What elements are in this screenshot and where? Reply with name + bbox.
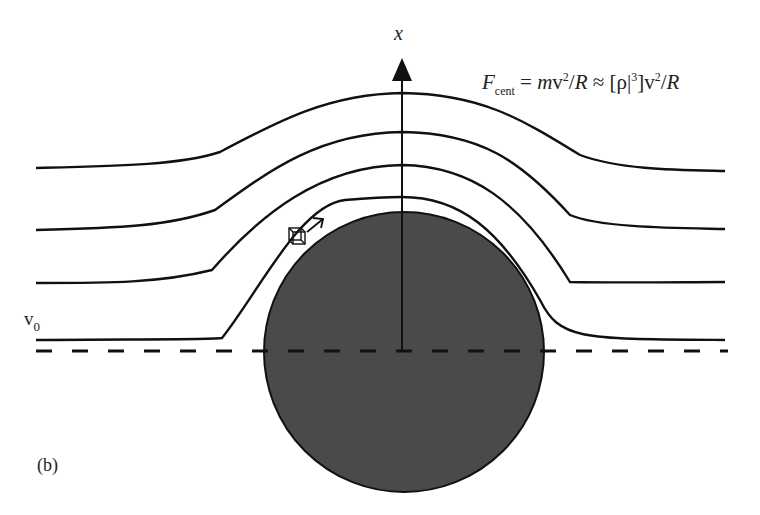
- fluid-element-cube-icon: [289, 228, 305, 244]
- formula-m: m: [537, 70, 552, 94]
- formula-v1: v: [552, 70, 563, 94]
- formula-approx: ≈: [593, 70, 605, 94]
- panel-label: (b): [37, 455, 58, 476]
- x-axis-label: x: [394, 22, 403, 45]
- velocity-label: v0: [24, 308, 40, 335]
- velocity-label-base: v: [24, 308, 34, 329]
- formula-R2: R: [667, 70, 680, 94]
- velocity-label-sub: 0: [34, 319, 41, 334]
- formula-R1: R: [575, 70, 588, 94]
- formula-bracket-open: [ρ|: [610, 70, 632, 94]
- formula-v2: v: [644, 70, 655, 94]
- formula-F: F: [482, 70, 495, 94]
- formula-cent: cent: [495, 84, 515, 98]
- formula-eq: =: [520, 70, 532, 94]
- centripetal-force-formula: Fcent = mv2/R ≈ [ρ|3]v2/R: [482, 70, 679, 99]
- axis-arrowhead-icon: [392, 58, 412, 81]
